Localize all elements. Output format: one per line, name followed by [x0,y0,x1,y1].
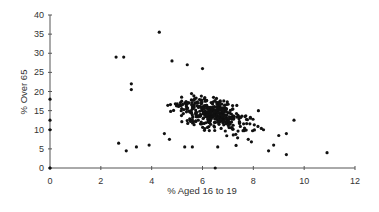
x-axis-label: % Aged 16 to 19 [167,185,237,196]
plot-area: 0246810120510152025303540 % Aged 16 to 1… [0,0,379,212]
y-tick-label: 5 [39,144,44,154]
y-tick-label: 25 [34,67,44,77]
x-tick-label: 10 [299,176,309,186]
y-tick-label: 30 [34,48,44,58]
y-axis-label: % Over 65 [18,70,29,115]
y-tick-label: 15 [34,106,44,116]
y-tick-label: 40 [34,10,44,20]
data-points [48,31,328,170]
x-tick-label: 12 [350,176,360,186]
x-tick-label: 8 [251,176,256,186]
y-tick-label: 10 [34,125,44,135]
x-tick-label: 2 [98,176,103,186]
scatter-chart: 0246810120510152025303540 % Aged 16 to 1… [0,0,379,212]
y-tick-label: 35 [34,29,44,39]
y-tick-label: 0 [39,163,44,173]
y-tick-label: 20 [34,87,44,97]
x-tick-label: 0 [47,176,52,186]
x-tick-label: 4 [149,176,154,186]
